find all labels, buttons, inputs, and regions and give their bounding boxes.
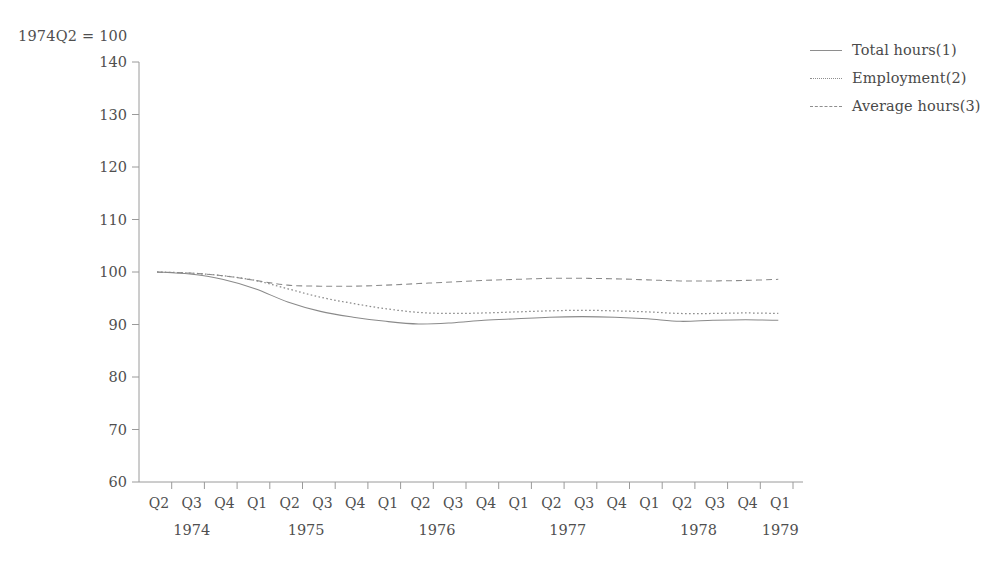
x-axis-quarter-label: Q2: [541, 495, 561, 511]
x-axis-quarter-label: Q4: [737, 495, 757, 511]
x-axis-year-label: 1976: [418, 522, 455, 538]
y-axis-tick-label: 120: [99, 159, 127, 175]
x-axis-quarter-label: Q1: [639, 495, 659, 511]
x-axis-quarter-label: Q3: [574, 495, 594, 511]
x-axis-year-label: 1977: [549, 522, 586, 538]
x-axis-quarter-label: Q2: [410, 495, 430, 511]
x-axis-quarter-label: Q3: [312, 495, 332, 511]
x-axis-quarter-label: Q2: [280, 495, 300, 511]
y-axis-tick-label: 110: [99, 212, 127, 228]
legend-line-swatch-dotted: [810, 73, 842, 83]
x-axis-year-label: 1979: [762, 522, 799, 538]
chart-legend: Total hours(1)Employment(2)Average hours…: [810, 36, 1005, 120]
legend-item-label: Total hours(1): [852, 42, 957, 58]
legend-item[interactable]: Average hours(3): [810, 92, 1005, 120]
y-axis-tick-label: 70: [109, 422, 127, 438]
series-line-1: [157, 272, 778, 314]
legend-item-label: Average hours(3): [852, 98, 981, 114]
x-axis-quarter-label: Q2: [149, 495, 169, 511]
legend-item-label: Employment(2): [852, 70, 967, 86]
x-axis-quarter-label: Q3: [181, 495, 201, 511]
y-axis-tick-label: 140: [99, 54, 127, 70]
y-axis-tick-label: 130: [99, 107, 127, 123]
y-axis-tick-label: 100: [99, 264, 127, 280]
x-axis-quarter-label: Q1: [378, 495, 398, 511]
x-axis-quarter-label: Q1: [770, 495, 790, 511]
x-axis-quarter-label: Q3: [705, 495, 725, 511]
x-axis-year-label: 1975: [288, 522, 325, 538]
y-axis-tick-label: 60: [109, 474, 127, 490]
x-axis-quarter-label: Q4: [607, 495, 627, 511]
y-axis-tick-label: 90: [109, 317, 127, 333]
x-axis-quarter-label: Q4: [345, 495, 365, 511]
chart-canvas: 1974Q2 = 100 60708090100110120130140Q2Q3…: [0, 0, 1005, 575]
x-axis-quarter-label: Q4: [476, 495, 496, 511]
x-axis-quarter-label: Q2: [672, 495, 692, 511]
y-axis-tick-label: 80: [109, 369, 127, 385]
x-axis-quarter-label: Q4: [214, 495, 234, 511]
legend-item[interactable]: Employment(2): [810, 64, 1005, 92]
x-axis-quarter-label: Q1: [508, 495, 528, 511]
legend-line-swatch-dashed: [810, 101, 842, 111]
legend-item[interactable]: Total hours(1): [810, 36, 1005, 64]
series-line-2: [157, 272, 778, 286]
x-axis-year-label: 1978: [680, 522, 717, 538]
x-axis-quarter-label: Q1: [247, 495, 267, 511]
x-axis-year-label: 1974: [173, 522, 210, 538]
x-axis-quarter-label: Q3: [443, 495, 463, 511]
legend-line-swatch-solid: [810, 45, 842, 55]
